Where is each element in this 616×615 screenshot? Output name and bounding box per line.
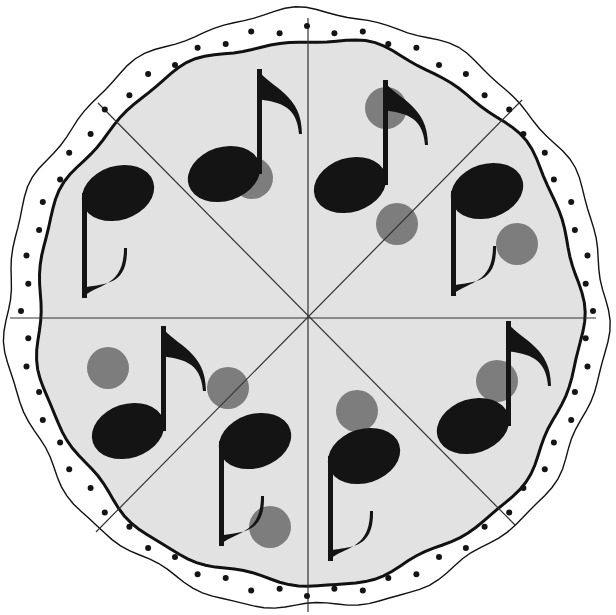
- crust-dot: [304, 23, 310, 29]
- crust-dot: [40, 199, 46, 205]
- crust-dot: [126, 524, 132, 530]
- pepperoni: [336, 390, 378, 432]
- crust-dot: [590, 308, 596, 314]
- crust-dot: [40, 417, 46, 423]
- crust-dot: [482, 524, 488, 530]
- crust-dot: [102, 510, 108, 516]
- crust-dot: [24, 364, 30, 370]
- crust-dot: [520, 485, 526, 491]
- crust-dot: [248, 29, 254, 35]
- crust-dot: [66, 466, 72, 472]
- crust-dot: [583, 335, 589, 341]
- crust-dot: [551, 177, 557, 183]
- crust-dot: [585, 252, 591, 258]
- crust-dot: [223, 575, 229, 581]
- crust-dot: [172, 62, 178, 68]
- crust-dot: [277, 30, 283, 36]
- crust-dot: [331, 586, 337, 592]
- pepperoni: [249, 506, 291, 548]
- crust-dot: [463, 71, 469, 77]
- crust-dot: [572, 227, 578, 233]
- note-stem: [219, 441, 224, 546]
- crust-dot: [360, 29, 366, 35]
- pepperoni: [376, 203, 418, 245]
- crust-dot: [506, 107, 512, 113]
- note-stem: [451, 191, 456, 296]
- crust-dot: [25, 335, 31, 341]
- crust-dot: [195, 571, 201, 577]
- crust-dot: [542, 150, 548, 156]
- crust-dot: [248, 588, 254, 594]
- crust-dot: [126, 92, 132, 98]
- crust-dot: [24, 252, 30, 258]
- crust-dot: [413, 45, 419, 51]
- crust-dot: [568, 199, 574, 205]
- crust-dot: [88, 485, 94, 491]
- crust-dot: [172, 554, 178, 560]
- crust-dot: [463, 545, 469, 551]
- crust-dot: [277, 586, 283, 592]
- crust-dot: [506, 510, 512, 516]
- pizza-illustration: [0, 0, 616, 615]
- crust-dot: [585, 364, 591, 370]
- crust-dot: [436, 554, 442, 560]
- crust-dot: [520, 131, 526, 137]
- crust-dot: [568, 417, 574, 423]
- crust-dot: [223, 41, 229, 47]
- crust-dot: [66, 150, 72, 156]
- cheese-surface: [37, 40, 586, 586]
- crust-dot: [36, 389, 42, 395]
- crust-dot: [360, 588, 366, 594]
- pepperoni: [207, 367, 249, 409]
- crust-dot: [102, 107, 108, 113]
- crust-dot: [57, 440, 63, 446]
- crust-dot: [18, 308, 24, 314]
- crust-dot: [195, 45, 201, 51]
- crust-dot: [436, 62, 442, 68]
- crust-dot: [385, 41, 391, 47]
- crust-dot: [145, 71, 151, 77]
- note-stem: [82, 193, 87, 298]
- pepperoni: [476, 360, 518, 402]
- crust-dot: [385, 575, 391, 581]
- crust-dot: [36, 227, 42, 233]
- crust-dot: [331, 30, 337, 36]
- crust-dot: [482, 92, 488, 98]
- crust-dot: [551, 440, 557, 446]
- note-stem: [328, 456, 333, 561]
- crust-dot: [88, 131, 94, 137]
- crust-dot: [57, 177, 63, 183]
- crust-dot: [304, 593, 310, 599]
- crust-dot: [25, 281, 31, 287]
- crust-dot: [542, 466, 548, 472]
- crust-dot: [583, 281, 589, 287]
- pepperoni: [87, 347, 129, 389]
- pepperoni: [496, 223, 538, 265]
- crust-dot: [413, 571, 419, 577]
- crust-dot: [572, 389, 578, 395]
- crust-dot: [145, 545, 151, 551]
- cheese: [37, 40, 586, 586]
- pizza-svg: [0, 0, 616, 615]
